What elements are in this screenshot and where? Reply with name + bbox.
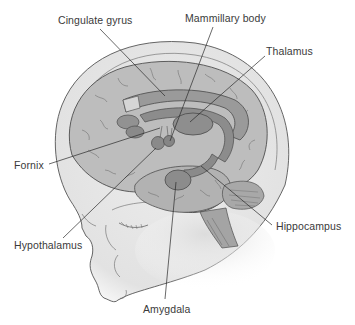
label-hippocampus: Hippocampus: [276, 220, 341, 232]
label-mammillary-body: Mammillary body: [185, 12, 266, 24]
label-cingulate-gyrus: Cingulate gyrus: [58, 14, 132, 26]
label-hypothalamus: Hypothalamus: [14, 239, 82, 251]
label-thalamus: Thalamus: [266, 45, 313, 57]
label-fornix: Fornix: [14, 159, 44, 171]
label-amygdala: Amygdala: [143, 303, 191, 315]
limbic-system-diagram: Cingulate gyrus Mammillary body Thalamus…: [0, 0, 355, 325]
